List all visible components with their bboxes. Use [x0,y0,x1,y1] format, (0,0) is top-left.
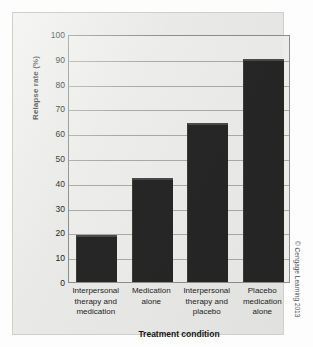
x-axis-title: Treatment condition [68,329,290,339]
bar [243,59,284,282]
x-category-label: Interpersonaltherapy andplacebo [179,286,235,318]
bar-series [69,36,289,282]
copyright-credit: © Cengage Learning 2013 [294,241,301,337]
y-tick-label: 100 [39,30,65,40]
figure: Relapse rate (%) 0102030405060708090100 … [0,0,313,347]
y-axis-tick-labels: 0102030405060708090100 [39,35,65,283]
x-category-label-line: Placebo [235,286,291,297]
x-category-label-line: Medication [124,286,180,297]
chart-panel: Relapse rate (%) 0102030405060708090100 … [12,12,284,335]
plot-area [68,35,290,283]
y-tick-label: 30 [39,204,65,214]
bar [76,235,117,282]
y-tick-label: 20 [39,228,65,238]
bar [132,178,173,282]
x-category-label-line: alone [235,307,291,318]
y-tick-label: 90 [39,55,65,65]
y-tick-label: 10 [39,253,65,263]
y-tick-label: 50 [39,154,65,164]
x-category-label: Placebomedicationalone [235,286,291,318]
bar [187,123,228,282]
y-tick-label: 40 [39,179,65,189]
x-category-label: Interpersonaltherapy andmedication [68,286,124,318]
x-category-label-line: therapy and [68,297,124,308]
x-category-label-line: Interpersonal [179,286,235,297]
x-category-label-line: Interpersonal [68,286,124,297]
x-category-label: Medicationalone [124,286,180,307]
x-category-label-line: medication [235,297,291,308]
y-tick-label: 80 [39,80,65,90]
y-tick-label: 60 [39,129,65,139]
y-tick-label: 70 [39,104,65,114]
x-category-label-line: placebo [179,307,235,318]
x-category-label-line: therapy and [179,297,235,308]
x-category-label-line: medication [68,307,124,318]
y-tick-label: 0 [39,278,65,288]
x-category-label-line: alone [124,297,180,308]
x-axis-category-labels: Interpersonaltherapy andmedicationMedica… [68,286,290,330]
